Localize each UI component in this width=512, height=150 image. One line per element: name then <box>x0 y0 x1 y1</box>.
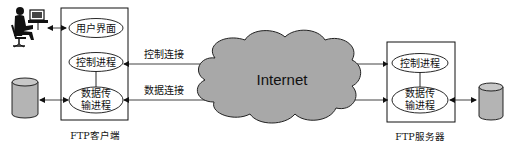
client-data-label-2: 输进程 <box>81 99 111 111</box>
server-data-label-1: 数据传 <box>405 87 435 99</box>
server-control-process-node: 控制进程 <box>392 54 448 73</box>
client-control-process-node: 控制进程 <box>69 53 123 72</box>
client-data-process-node: 数据传 输进程 <box>69 87 123 113</box>
user-at-computer-icon <box>12 7 48 47</box>
client-ui-label: 用户界面 <box>76 22 116 34</box>
internet-cloud-icon: Internet <box>197 30 360 123</box>
client-control-label: 控制进程 <box>76 56 116 68</box>
database-cylinder-icon <box>479 83 503 120</box>
database-cylinder-icon <box>12 78 38 118</box>
internet-label: Internet <box>257 71 309 88</box>
ftp-client-label: FTP客户端 <box>70 130 119 141</box>
ftp-server-label: FTP服务器 <box>395 131 444 142</box>
server-control-label: 控制进程 <box>400 57 440 69</box>
server-data-label-2: 输进程 <box>405 99 435 111</box>
client-data-label-1: 数据传 <box>81 87 111 99</box>
data-connection-label: 数据连接 <box>144 84 184 96</box>
ftp-architecture-diagram: 用户界面 控制进程 数据传 输进程 FTP客户端 控制连接 数据连接 Inter… <box>0 0 512 150</box>
server-data-process-node: 数据传 输进程 <box>392 87 448 113</box>
control-connection-label: 控制连接 <box>144 48 184 60</box>
client-user-interface-node: 用户界面 <box>69 19 123 38</box>
